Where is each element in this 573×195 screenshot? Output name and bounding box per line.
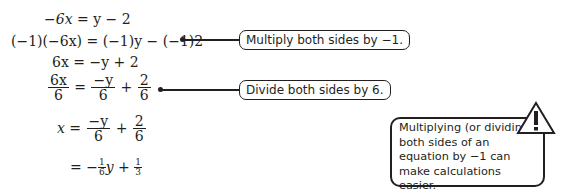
step-1-lhs: −6x [44,11,73,27]
step-6-fraction-1: 16 [98,158,106,177]
step-3-lhs: 6x [52,54,69,70]
step-4-rhs-fraction-2: 26 [138,73,151,102]
equation-step-3: 6x = −y + 2 [52,54,139,70]
callout-multiply: Multiply both sides by −1. [239,30,410,50]
equation-step-6: = −16y + 13 [70,158,142,177]
step-6-fraction-2: 13 [134,158,142,177]
equation-step-5: x = −y6 + 26 [57,114,147,143]
callout-1-leader-line [183,39,240,41]
equation-step-1: −6x = y − 2 [44,11,131,27]
equation-step-2: (−1)(−6x) = (−1)y − (−1)2 [11,33,203,49]
step-4-lhs-fraction: 6x6 [48,73,69,102]
step-4-rhs-fraction-1: −y6 [91,73,115,102]
step-1-rhs: y − 2 [93,11,130,27]
step-2-lhs: (−1)(−6x) [11,33,82,49]
equation-step-4: 6x6 = −y6 + 26 [47,73,152,102]
step-5-rhs-fraction-2: 26 [133,114,146,143]
callout-divide: Divide both sides by 6. [239,80,391,100]
step-2-rhs: (−1)y − (−1)2 [103,33,204,49]
warning-icon [516,101,556,135]
step-3-rhs: −y + 2 [89,54,138,70]
step-5-rhs-fraction-1: −y6 [87,114,111,143]
callout-2-leader-line [161,89,240,91]
